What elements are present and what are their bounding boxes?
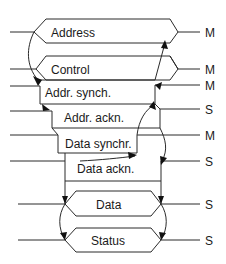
data-synchr-label: Data synchr. bbox=[65, 137, 132, 151]
address-source: M bbox=[205, 26, 215, 40]
status-source: S bbox=[205, 234, 213, 248]
data-ackn-source: S bbox=[205, 155, 213, 169]
control-signal: Control M bbox=[10, 56, 215, 80]
arrowhead-addr-synch-end bbox=[155, 82, 162, 90]
data-label: Data bbox=[96, 198, 122, 212]
control-label: Control bbox=[51, 63, 90, 77]
addr-ackn-label: Addr. ackn. bbox=[64, 111, 124, 125]
data-ackn-label: Data ackn. bbox=[77, 162, 134, 176]
data-synchr-source: M bbox=[205, 129, 215, 143]
addr-ackn-source: S bbox=[205, 103, 213, 117]
data-ackn-signal: Data ackn. S bbox=[10, 153, 213, 181]
control-source: M bbox=[205, 63, 215, 77]
arrow-data-synchr-to-data-ackn bbox=[80, 156, 135, 161]
arrowhead-data-right bbox=[158, 196, 164, 204]
status-signal: Status S bbox=[18, 228, 213, 252]
arrow-address-to-addr-synch bbox=[28, 32, 38, 80]
arrowhead-addr-synch bbox=[33, 76, 42, 86]
bus-timing-diagram: Address M Control M Addr. synch. M Addr.… bbox=[0, 0, 226, 264]
address-label: Address bbox=[51, 26, 95, 40]
status-label: Status bbox=[91, 234, 125, 248]
arrowhead-addr-ackn bbox=[42, 104, 50, 111]
data-synchr-connector bbox=[52, 128, 58, 135]
data-synchr-signal: Data synchr. M bbox=[10, 128, 215, 153]
arrowhead-address-end bbox=[161, 40, 168, 49]
addr-synch-source: M bbox=[205, 79, 215, 93]
address-signal: Address M bbox=[10, 19, 215, 43]
data-signal: Data S bbox=[18, 181, 213, 216]
addr-ackn-signal: Addr. ackn. S bbox=[10, 103, 213, 128]
arrow-data-synchr-to-addr-synch bbox=[137, 104, 155, 135]
control-right-connector bbox=[170, 56, 178, 69]
addr-synch-signal: Addr. synch. M bbox=[10, 79, 215, 104]
arrowhead-data-left bbox=[62, 196, 68, 204]
addr-synch-label: Addr. synch. bbox=[45, 86, 111, 100]
arrow-addr-synch-to-address bbox=[155, 43, 165, 80]
arrow-addr-ackn-to-data-ackn bbox=[160, 128, 166, 161]
data-source: S bbox=[205, 198, 213, 212]
